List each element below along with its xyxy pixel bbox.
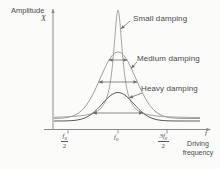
series-label-medium-damping: Medium damping: [137, 55, 200, 64]
x-axis-label: Driving frequency: [181, 140, 215, 158]
arrowhead: [207, 128, 211, 131]
arrowhead: [129, 95, 133, 98]
x-axis-label-line1: Driving: [181, 140, 215, 149]
series-label-heavy-damping: Heavy damping: [141, 85, 198, 94]
series-label-small-damping: Small damping: [133, 15, 187, 24]
tick-label-f0-over-2: f0 2: [61, 132, 68, 149]
tick-label-3f0-over-2: 3f0 2: [158, 132, 169, 149]
amplitude-symbol: X: [41, 15, 46, 24]
frequency-symbol: f: [205, 130, 207, 138]
arrowhead: [51, 9, 54, 13]
x-axis-label-line2: frequency: [181, 149, 215, 158]
tick-label-f0: f0: [114, 133, 118, 142]
y-axis-label: Amplitude: [11, 7, 44, 15]
resonance-figure: Amplitude X Small damping Medium damping…: [0, 0, 220, 169]
